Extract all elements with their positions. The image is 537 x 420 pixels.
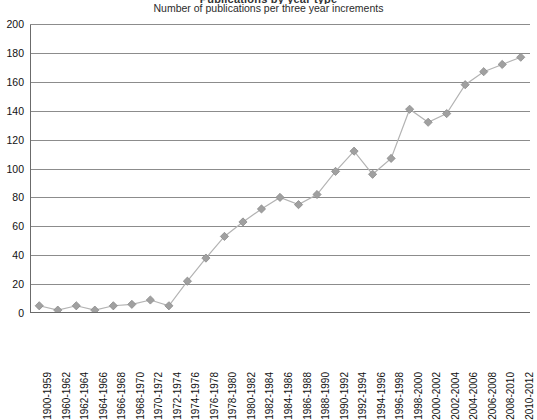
- data-point-marker: [406, 105, 414, 113]
- x-tick-label: 2010-2012: [525, 372, 535, 420]
- gridlines: [30, 25, 530, 314]
- y-tick-label: 100: [6, 164, 24, 174]
- y-tick-label: 20: [12, 279, 24, 289]
- data-point-marker: [128, 300, 136, 308]
- data-point-marker: [146, 296, 154, 304]
- plot-area: [30, 24, 530, 313]
- x-tick-label: 1982-1984: [265, 372, 275, 420]
- y-tick-label: 40: [12, 250, 24, 260]
- x-tick-label: 1988-1990: [321, 372, 331, 420]
- x-tick-label: 1968-1970: [136, 372, 146, 420]
- x-tick-label: 2000-2002: [432, 372, 442, 420]
- y-tick-label: 200: [6, 19, 24, 29]
- x-tick-label: 1966-1968: [117, 372, 127, 420]
- x-tick-label: 1998-2000: [414, 372, 424, 420]
- data-point-marker: [517, 53, 525, 61]
- data-point-marker: [109, 302, 117, 310]
- x-tick-label: 2002-2004: [451, 372, 461, 420]
- x-tick-label: 1992-1994: [358, 372, 368, 420]
- series-line: [39, 57, 520, 310]
- x-tick-label: 1960-1962: [62, 372, 72, 420]
- data-point-marker: [91, 306, 99, 313]
- x-tick-label: 2006-2008: [488, 372, 498, 420]
- x-tick-label: 1964-1966: [99, 372, 109, 420]
- series-markers: [35, 53, 525, 313]
- x-tick-label: 1990-1992: [340, 372, 350, 420]
- x-tick-label: 1994-1996: [377, 372, 387, 420]
- x-tick-label: 1974-1976: [191, 372, 201, 420]
- data-point-marker: [443, 109, 451, 117]
- x-axis: 1900-19591960-19621962-19641964-19661966…: [30, 316, 530, 373]
- data-point-marker: [424, 118, 432, 126]
- data-point-marker: [35, 302, 43, 310]
- data-point-marker: [498, 60, 506, 68]
- y-tick-label: 160: [6, 77, 24, 87]
- chart-title: Number of publications per three year in…: [0, 2, 537, 15]
- plot-svg: [30, 24, 530, 313]
- x-tick-label: 1978-1980: [228, 372, 238, 420]
- x-tick-label: 1996-1998: [395, 372, 405, 420]
- x-tick-label: 2008-2010: [506, 372, 516, 420]
- x-tick-label: 1962-1964: [80, 372, 90, 420]
- data-point-marker: [294, 201, 302, 209]
- x-tick-label: 1976-1978: [210, 372, 220, 420]
- y-axis: 020406080100120140160180200: [0, 24, 27, 313]
- data-point-marker: [480, 68, 488, 76]
- x-tick-label: 2004-2006: [469, 372, 479, 420]
- x-tick-label: 1970-1972: [154, 372, 164, 420]
- y-tick-label: 0: [18, 308, 24, 318]
- data-point-marker: [54, 306, 62, 313]
- y-tick-label: 120: [6, 135, 24, 145]
- x-tick-label: 1900-1959: [43, 372, 53, 420]
- x-tick-label: 1984-1986: [284, 372, 294, 420]
- data-point-marker: [276, 193, 284, 201]
- data-point-marker: [72, 302, 80, 310]
- y-tick-label: 180: [6, 48, 24, 58]
- data-point-marker: [461, 81, 469, 89]
- data-point-marker: [257, 205, 265, 213]
- y-tick-label: 80: [12, 192, 24, 202]
- x-tick-label: 1986-1988: [303, 372, 313, 420]
- y-tick-label: 140: [6, 106, 24, 116]
- y-tick-label: 60: [12, 221, 24, 231]
- x-tick-label: 1972-1974: [173, 372, 183, 420]
- x-tick-label: 1980-1982: [247, 372, 257, 420]
